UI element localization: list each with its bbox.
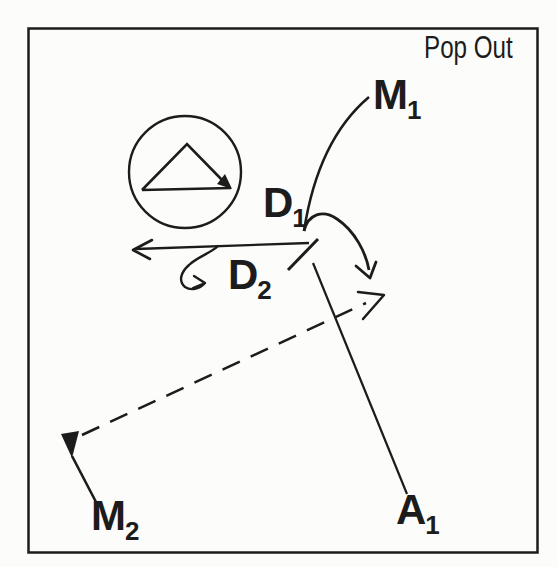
label-m2: M2 — [91, 495, 139, 544]
label-d1-base: D — [263, 179, 292, 226]
dashed-line-arrowhead-icon — [358, 292, 384, 319]
a1-line — [313, 263, 407, 494]
label-m1-base: M — [373, 71, 407, 118]
m1-leader-curve — [304, 97, 369, 231]
d-line — [136, 243, 309, 249]
label-a1-sub: 1 — [425, 510, 439, 540]
label-m1-sub: 1 — [407, 95, 421, 125]
d2-curl-arrow — [181, 246, 218, 289]
corner-title: Pop Out — [424, 32, 513, 63]
label-d2-base: D — [228, 251, 257, 298]
rotation-symbol-circle — [129, 116, 241, 228]
label-m2-sub: 2 — [125, 516, 139, 546]
label-d1-sub: 1 — [292, 203, 306, 233]
m1-popout-arrowhead-icon — [356, 262, 376, 278]
label-m2-base: M — [91, 492, 125, 539]
figure-pop-out-diagram: Pop Out M1 D1 D2 M2 A1 — [0, 0, 557, 567]
diagram-canvas — [0, 0, 557, 567]
label-a1-base: A — [396, 486, 425, 533]
label-d2: D2 — [228, 254, 272, 303]
label-m1: M1 — [373, 74, 421, 123]
label-d1: D1 — [263, 182, 307, 231]
rotation-symbol-triangle — [142, 144, 231, 190]
m2-anchor-wedge-icon — [61, 431, 79, 458]
label-d2-sub: 2 — [257, 275, 271, 305]
label-a1: A1 — [396, 489, 440, 538]
frame-border — [29, 29, 538, 553]
dashed-motion-line — [82, 303, 366, 435]
